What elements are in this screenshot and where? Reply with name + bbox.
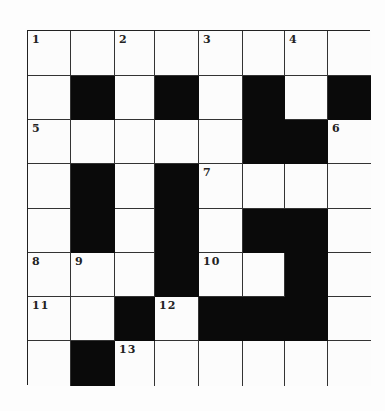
grid-cell-r4-c2[interactable] — [115, 209, 155, 253]
grid-cell-r2-c7[interactable]: 6 — [328, 120, 371, 164]
black-square — [285, 297, 328, 341]
black-square — [285, 209, 328, 253]
black-square — [155, 76, 199, 120]
grid-cell-r3-c2[interactable] — [115, 164, 155, 209]
black-square — [285, 120, 328, 164]
black-square — [243, 120, 285, 164]
black-square — [71, 341, 115, 386]
grid-cell-r0-c0[interactable]: 1 — [28, 31, 71, 76]
black-square — [328, 76, 371, 120]
grid-cell-r4-c0[interactable] — [28, 209, 71, 253]
grid-cell-r7-c6[interactable] — [285, 341, 328, 386]
grid-cell-r6-c7[interactable] — [328, 297, 371, 341]
grid-cell-r7-c5[interactable] — [243, 341, 285, 386]
grid-cell-r7-c4[interactable] — [199, 341, 243, 386]
clue-number: 3 — [203, 34, 212, 45]
black-square — [155, 253, 199, 297]
clue-number: 11 — [32, 300, 49, 311]
grid-cell-r0-c2[interactable]: 2 — [115, 31, 155, 76]
clue-number: 2 — [119, 34, 128, 45]
clue-number: 1 — [32, 34, 41, 45]
clue-number: 7 — [203, 167, 212, 178]
grid-cell-r2-c0[interactable]: 5 — [28, 120, 71, 164]
grid-cell-r6-c0[interactable]: 11 — [28, 297, 71, 341]
grid-cell-r1-c6[interactable] — [285, 76, 328, 120]
black-square — [71, 164, 115, 209]
black-square — [155, 164, 199, 209]
grid-cell-r3-c0[interactable] — [28, 164, 71, 209]
black-square — [199, 297, 243, 341]
grid-cell-r0-c4[interactable]: 3 — [199, 31, 243, 76]
clue-number: 8 — [32, 256, 41, 267]
black-square — [71, 76, 115, 120]
grid-cell-r7-c0[interactable] — [28, 341, 71, 386]
grid-cell-r7-c3[interactable] — [155, 341, 199, 386]
grid-cell-r5-c1[interactable]: 9 — [71, 253, 115, 297]
clue-number: 5 — [32, 123, 41, 134]
grid-cell-r6-c1[interactable] — [71, 297, 115, 341]
grid-cell-r5-c0[interactable]: 8 — [28, 253, 71, 297]
black-square — [243, 209, 285, 253]
grid-cell-r7-c2[interactable]: 13 — [115, 341, 155, 386]
clue-number: 9 — [75, 256, 84, 267]
grid-cell-r2-c3[interactable] — [155, 120, 199, 164]
clue-number: 13 — [119, 344, 136, 355]
grid-cell-r1-c2[interactable] — [115, 76, 155, 120]
grid-cell-r1-c0[interactable] — [28, 76, 71, 120]
grid-cell-r5-c7[interactable] — [328, 253, 371, 297]
grid-cell-r3-c5[interactable] — [243, 164, 285, 209]
grid-cell-r0-c1[interactable] — [71, 31, 115, 76]
clue-number: 12 — [159, 300, 176, 311]
grid-cell-r0-c7[interactable] — [328, 31, 371, 76]
clue-number: 4 — [289, 34, 298, 45]
black-square — [243, 297, 285, 341]
black-square — [243, 76, 285, 120]
grid-cell-r1-c4[interactable] — [199, 76, 243, 120]
clue-number: 6 — [332, 123, 341, 134]
grid-cell-r5-c2[interactable] — [115, 253, 155, 297]
grid-cell-r3-c7[interactable] — [328, 164, 371, 209]
grid-cell-r5-c4[interactable]: 10 — [199, 253, 243, 297]
black-square — [285, 253, 328, 297]
black-square — [115, 297, 155, 341]
black-square — [155, 209, 199, 253]
grid-cell-r2-c2[interactable] — [115, 120, 155, 164]
grid-cell-r7-c7[interactable] — [328, 341, 371, 386]
grid-cell-r3-c4[interactable]: 7 — [199, 164, 243, 209]
crossword-grid: 12345678910111213 — [27, 30, 370, 385]
grid-cell-r3-c6[interactable] — [285, 164, 328, 209]
black-square — [71, 209, 115, 253]
grid-cell-r4-c7[interactable] — [328, 209, 371, 253]
grid-cell-r5-c5[interactable] — [243, 253, 285, 297]
grid-cell-r2-c4[interactable] — [199, 120, 243, 164]
grid-cell-r0-c6[interactable]: 4 — [285, 31, 328, 76]
grid-cell-r6-c3[interactable]: 12 — [155, 297, 199, 341]
grid-cell-r0-c3[interactable] — [155, 31, 199, 76]
clue-number: 10 — [203, 256, 220, 267]
grid-cell-r0-c5[interactable] — [243, 31, 285, 76]
grid-cell-r4-c4[interactable] — [199, 209, 243, 253]
grid-cell-r2-c1[interactable] — [71, 120, 115, 164]
